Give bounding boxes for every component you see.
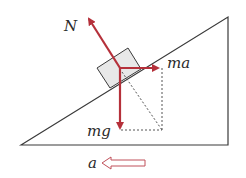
normal-force-arrow: [89, 19, 120, 68]
label-inertial-force: ma: [167, 54, 190, 72]
label-normal-force: N: [63, 17, 78, 35]
label-gravity: mg: [87, 122, 111, 140]
incline-wedge: [21, 17, 228, 145]
incline-diagram: N ma mg a: [0, 0, 246, 178]
acceleration-arrow-icon: [102, 157, 145, 169]
label-acceleration: a: [88, 154, 97, 172]
